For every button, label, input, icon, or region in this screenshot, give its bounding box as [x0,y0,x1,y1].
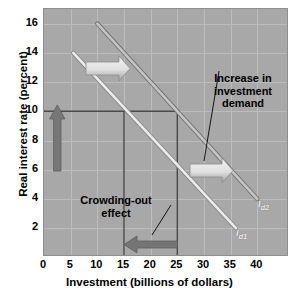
demand-shift-arrow-lower [190,158,233,183]
x-tick-label: 10 [84,258,108,271]
annotation-line: Increase in [197,72,288,85]
annotation-line: investment [197,85,288,98]
curve-label-id2-subscript: d2 [261,203,270,212]
crowding-out-arrow [124,236,177,253]
x-tick-label: 30 [191,258,215,271]
y-tick-label: 2 [14,221,38,232]
y-tick-label: 16 [14,17,38,28]
x-tick-label: 35 [218,258,242,271]
curve-label-id2: Id2 [258,199,269,212]
annotation-line: Crowding-out [61,194,171,207]
interest-rate-rise-arrow [50,105,65,171]
curve-label-id1-subscript: d1 [239,232,248,241]
x-tick-label: 25 [164,258,188,271]
y-axis-label: Real interest rate (percent) [17,44,29,204]
plot-area: Id2 Id1 Increase in investment demand Cr… [43,8,288,256]
x-tick-label: 5 [58,258,82,271]
demand-shift-arrow-upper [86,56,130,81]
annotation-line: effect [61,207,171,220]
investment-demand-chart: Id2 Id1 Increase in investment demand Cr… [0,0,299,296]
curve-label-id1: Id1 [236,228,247,241]
x-tick-label: 20 [138,258,162,271]
x-tick-label: 40 [244,258,268,271]
annotation-line: demand [197,97,288,110]
x-tick-label: 15 [111,258,135,271]
x-tick-label: 0 [31,258,55,271]
increase-in-investment-demand-annotation: Increase in investment demand [197,72,288,110]
x-axis-label: Investment (billions of dollars) [0,276,299,288]
crowding-out-effect-annotation: Crowding-out effect [61,194,171,219]
